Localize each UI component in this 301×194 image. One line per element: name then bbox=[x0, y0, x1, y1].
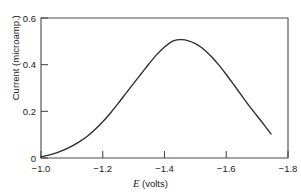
x-tick-label: −1.0 bbox=[32, 163, 51, 174]
data-series-line bbox=[41, 40, 271, 157]
x-tick-label: −1.2 bbox=[93, 163, 112, 174]
x-axis-title-units: (volts) bbox=[139, 178, 168, 189]
plot-area: 0 0.2 0.4 0.6 −1.0 −1.2 −1.4 −1.6 −1.8 E… bbox=[0, 0, 301, 194]
x-tick-label: −1.6 bbox=[217, 163, 236, 174]
x-tick-label: −1.8 bbox=[279, 163, 298, 174]
x-tick-labels: −1.0 −1.2 −1.4 −1.6 −1.8 bbox=[32, 163, 298, 174]
plot-frame bbox=[41, 18, 288, 158]
y-tick-label: 0.4 bbox=[23, 59, 36, 70]
y-tick-label: 0.6 bbox=[23, 13, 36, 24]
y-tick-labels: 0 0.2 0.4 0.6 bbox=[23, 13, 36, 164]
x-tick-label: −1.4 bbox=[155, 163, 174, 174]
x-tick-marks bbox=[41, 151, 288, 158]
y-tick-marks bbox=[41, 18, 48, 158]
x-axis-title: E (volts) bbox=[132, 178, 168, 189]
y-tick-label: 0.2 bbox=[23, 106, 36, 117]
chart-figure: Current (microamp.) 0 0.2 0.4 0.6 bbox=[0, 0, 301, 194]
svg-text:E (volts): E (volts) bbox=[132, 178, 168, 189]
y-tick-label: 0 bbox=[31, 153, 36, 164]
